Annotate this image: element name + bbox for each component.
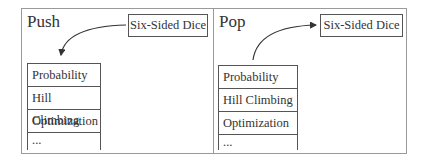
push-arrow-icon: [61, 25, 126, 55]
arrows: [0, 0, 425, 163]
pop-arrow-icon: [253, 25, 316, 60]
